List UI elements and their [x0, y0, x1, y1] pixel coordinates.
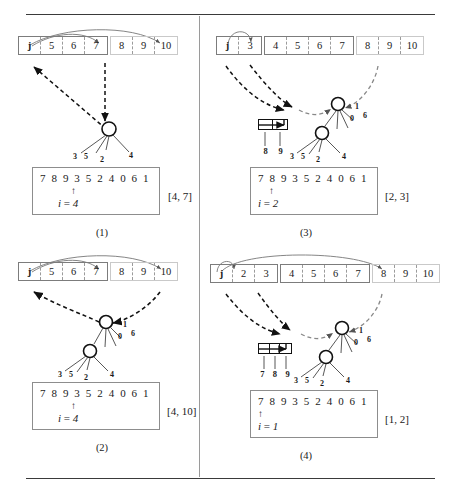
index-array: j 5 6 7 8 9 10 — [18, 262, 178, 281]
array-cell[interactable]: 5 — [41, 263, 63, 280]
array-cell[interactable]: j — [19, 37, 41, 54]
array-cell[interactable]: 10 — [155, 37, 177, 54]
tree-edge-label: 3 — [294, 377, 298, 385]
array-cell[interactable]: 5 — [287, 37, 309, 54]
sequence-values: 7 8 9 3 5 2 4 0 6 1 — [258, 395, 370, 409]
tree-edge-label: 0 — [350, 115, 354, 123]
array-cell[interactable]: 8 — [111, 37, 133, 54]
index-equals: = — [261, 420, 273, 432]
array-cell[interactable]: j — [217, 37, 239, 54]
buffer-label: 9 — [281, 369, 294, 379]
buffer-slot[interactable] — [259, 120, 273, 129]
range-label: [4, 10] — [167, 405, 196, 417]
buffer-label: 7 — [256, 369, 269, 379]
sequence-box: 7 8 9 3 5 2 4 0 6 1 ↑ i = 1 — [250, 390, 378, 438]
array-cell[interactable]: j — [211, 265, 233, 282]
tree-edge-label: 4 — [346, 377, 350, 385]
panel-caption: (1) — [2, 227, 202, 238]
array-group-active[interactable]: 4 5 6 7 — [280, 264, 370, 283]
array-cell[interactable]: 6 — [325, 265, 347, 282]
array-cell[interactable]: 10 — [401, 37, 423, 54]
array-cell[interactable]: 6 — [63, 263, 85, 280]
array-cell[interactable]: j — [19, 263, 41, 280]
panel-3: j 3 4 5 6 7 8 9 10 8 9 0 6 1 3 — [206, 22, 406, 247]
array-cell[interactable]: 9 — [379, 37, 401, 54]
buffer-box[interactable] — [258, 119, 288, 130]
array-cell[interactable]: 5 — [41, 37, 63, 54]
tree-edge-label: 6 — [131, 330, 135, 338]
array-cell[interactable]: 3 — [255, 265, 277, 282]
array-cell[interactable]: 3 — [239, 37, 261, 54]
tree-edge-label: 0 — [118, 333, 122, 341]
index-array: j 3 4 5 6 7 8 9 10 — [216, 36, 424, 55]
tree-edge-label: 2 — [320, 380, 324, 388]
array-cell[interactable]: 9 — [133, 37, 155, 54]
buffer-slot[interactable] — [280, 344, 291, 353]
array-cell[interactable]: 4 — [281, 265, 303, 282]
tree-edge-label: 4 — [342, 153, 346, 161]
tree-edge-label: 3 — [73, 153, 77, 161]
array-cell[interactable]: 6 — [63, 37, 85, 54]
buffer-label: 8 — [258, 146, 273, 156]
array-group-inactive[interactable]: 8 9 10 — [356, 36, 424, 55]
buffer-labels: 8 9 — [258, 146, 288, 156]
sequence-values: 7 8 9 3 5 2 4 0 6 1 — [40, 172, 152, 186]
index-array: j 2 3 4 5 6 7 8 9 10 — [210, 264, 440, 283]
array-group-left[interactable]: j 2 3 — [210, 264, 278, 283]
range-label: [1, 2] — [385, 413, 409, 425]
pointer-arrow-icon: ↑ — [71, 186, 76, 196]
array-cell[interactable]: 2 — [233, 265, 255, 282]
tree-edge-label: 5 — [301, 153, 305, 161]
array-cell[interactable]: 9 — [395, 265, 417, 282]
array-cell[interactable]: 5 — [303, 265, 325, 282]
array-group-left[interactable]: j 3 — [216, 36, 262, 55]
tree-edge-label: 2 — [316, 156, 320, 164]
array-group-active[interactable]: j 5 6 7 — [18, 36, 108, 55]
array-cell[interactable]: 10 — [417, 265, 439, 282]
array-group-inactive[interactable]: 8 9 10 — [110, 36, 178, 55]
pointer-row: ↑ — [258, 186, 370, 197]
array-cell[interactable]: 8 — [373, 265, 395, 282]
tree-edge-label: 2 — [84, 374, 88, 382]
sequence-values: 7 8 9 3 5 2 4 0 6 1 — [40, 387, 152, 401]
array-group-inactive[interactable]: 8 9 10 — [372, 264, 440, 283]
array-group-active[interactable]: 4 5 6 7 — [264, 36, 354, 55]
index-value: 2 — [273, 197, 279, 209]
pointer-row: ↑ — [40, 186, 152, 197]
tree-edge-label: 5 — [305, 377, 309, 385]
array-cell[interactable]: 7 — [331, 37, 353, 54]
array-cell[interactable]: 7 — [347, 265, 369, 282]
buffer-slot[interactable] — [270, 344, 281, 353]
buffer-label: 8 — [269, 369, 282, 379]
array-group-active[interactable]: j 5 6 7 — [18, 262, 108, 281]
pointer-arrow-icon: ↑ — [258, 409, 263, 419]
panel-4-connectors — [206, 250, 406, 475]
array-cell[interactable]: 4 — [265, 37, 287, 54]
range-label: [4, 7] — [168, 190, 192, 202]
array-group-inactive[interactable]: 8 9 10 — [110, 262, 178, 281]
index-equals: = — [61, 412, 73, 424]
sequence-box: 7 8 9 3 5 2 4 0 6 1 ↑ i = 2 — [250, 167, 378, 215]
buffer-slot[interactable] — [273, 120, 287, 129]
array-cell[interactable]: 7 — [85, 263, 107, 280]
bottom-rule — [26, 478, 435, 479]
array-cell[interactable]: 9 — [133, 263, 155, 280]
index-label: i = 1 — [258, 420, 370, 434]
tree-edge-label: 1 — [355, 103, 359, 111]
tree-edge-label: 0 — [354, 339, 358, 347]
panel-caption: (3) — [206, 227, 406, 238]
pointer-arrow-icon: ↑ — [71, 401, 76, 411]
array-cell[interactable]: 10 — [155, 263, 177, 280]
array-cell[interactable]: 8 — [357, 37, 379, 54]
array-cell[interactable]: 7 — [85, 37, 107, 54]
panel-1: j 5 6 7 8 9 10 3 5 2 4 7 8 9 3 5 2 4 0 6… — [2, 22, 202, 247]
buffer-box[interactable] — [258, 343, 292, 354]
tree-edge-label: 6 — [367, 336, 371, 344]
panel-caption: (4) — [206, 450, 406, 461]
tree-edge-label: 5 — [84, 153, 88, 161]
tree-edge-label: 4 — [110, 371, 114, 379]
tree-edge-label: 6 — [363, 112, 367, 120]
array-cell[interactable]: 8 — [111, 263, 133, 280]
buffer-slot[interactable] — [259, 344, 270, 353]
array-cell[interactable]: 6 — [309, 37, 331, 54]
